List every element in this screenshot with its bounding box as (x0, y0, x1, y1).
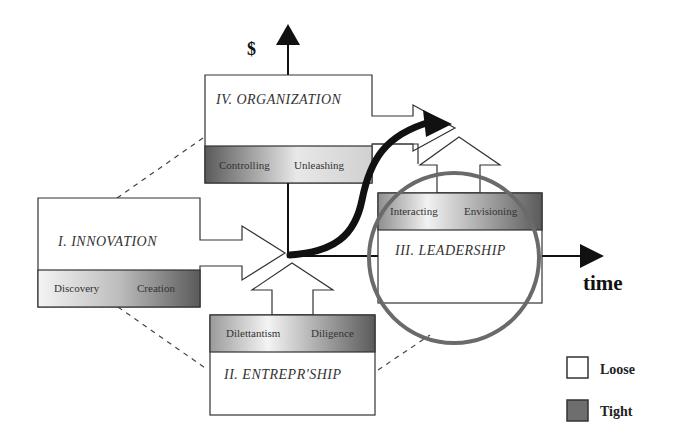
legend-item-loose: Loose (567, 357, 635, 378)
entrepreneurship-title: II. ENTREPR'SHIP (223, 367, 342, 382)
quadrant-leadership: Interacting Envisioning III. LEADERSHIP (372, 137, 542, 303)
dashed-line-ent-lead (378, 335, 430, 370)
organization-band-right: Unleashing (294, 159, 345, 171)
leadership-band-left: Interacting (390, 205, 438, 217)
legend-swatch-loose (567, 357, 588, 378)
leadership-up-arrow (420, 137, 500, 193)
organization-band-left: Controlling (219, 159, 270, 171)
entrepreneurship-band-left: Dilettantism (226, 327, 281, 339)
legend-label-tight: Tight (600, 404, 633, 419)
y-axis-arrowhead-icon (276, 24, 300, 45)
innovation-band-right: Creation (137, 282, 175, 294)
innovation-band-left: Discovery (54, 282, 100, 294)
dashed-line-innov-org (117, 138, 203, 198)
entrepreneurship-band-right: Diligence (311, 327, 354, 339)
legend-item-tight: Tight (567, 400, 633, 421)
legend-swatch-tight (567, 400, 588, 421)
x-axis-arrowhead-icon (580, 244, 604, 268)
quadrant-innovation: I. INNOVATION Discovery Creation (38, 198, 285, 307)
y-axis-label: $ (247, 39, 256, 59)
entrepreneurship-up-arrow (252, 263, 333, 315)
x-axis-label: time (583, 271, 623, 295)
leadership-band-right: Envisioning (464, 205, 518, 217)
organization-title: IV. ORGANIZATION (215, 92, 342, 107)
legend-label-loose: Loose (600, 362, 635, 377)
quadrant-entrepreneurship: Dilettantism Diligence II. ENTREPR'SHIP (210, 263, 375, 415)
dashed-line-innov-ent (118, 307, 208, 370)
leadership-title: III. LEADERSHIP (394, 243, 506, 258)
legend: Loose Tight (567, 357, 635, 421)
diagram-canvas: $ time IV. ORGANIZATION Controlling Unle… (0, 0, 681, 444)
innovation-title: I. INNOVATION (57, 234, 157, 249)
